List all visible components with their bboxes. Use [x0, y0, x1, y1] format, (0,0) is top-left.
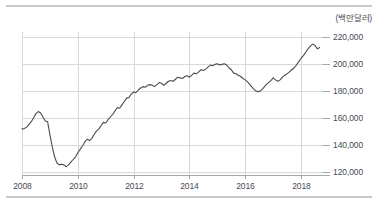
- x-tick-label: 2018: [292, 181, 311, 191]
- x-tick-label: 2016: [236, 181, 255, 191]
- x-tick-label: 2008: [13, 181, 32, 191]
- data-series-line: [22, 44, 320, 167]
- chart-figure: (백만달러) 220,000200,000180,000160,000140,0…: [0, 0, 378, 204]
- y-tick-marks: [322, 38, 330, 173]
- y-tick-label: 160,000: [333, 113, 363, 123]
- line-chart-plot: [0, 0, 378, 204]
- y-tick-label: 200,000: [333, 59, 363, 69]
- y-tick-label: 120,000: [333, 167, 363, 177]
- horizontal-gridlines: [22, 38, 322, 173]
- y-tick-label: 220,000: [333, 32, 363, 42]
- x-tick-label: 2010: [69, 181, 88, 191]
- x-tick-label: 2012: [125, 181, 144, 191]
- x-tick-label: 2014: [180, 181, 199, 191]
- y-tick-label: 180,000: [333, 86, 363, 96]
- vertical-gridlines: [23, 32, 302, 175]
- y-tick-label: 140,000: [333, 140, 363, 150]
